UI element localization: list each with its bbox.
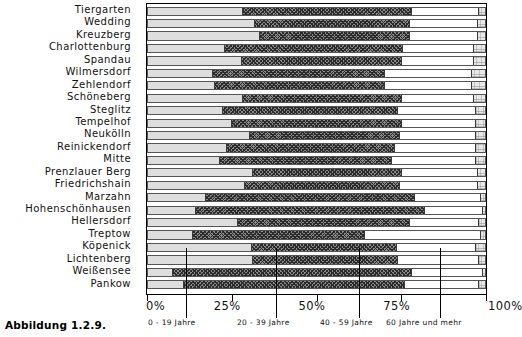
bar-segment xyxy=(259,32,409,39)
bar-segment xyxy=(480,194,485,201)
stacked-bar xyxy=(147,131,486,140)
bar-segment xyxy=(249,132,399,139)
bar-row xyxy=(147,216,486,228)
category-label: Hellersdorf xyxy=(0,215,136,227)
x-axis-tick-label: 25% xyxy=(214,299,241,313)
bar-segment xyxy=(411,8,478,15)
bar-segment xyxy=(477,32,485,39)
bar-segment xyxy=(226,144,395,151)
legend-entry: 0 - 19 Jahre xyxy=(148,318,195,327)
bar-segment xyxy=(399,182,477,189)
stacked-bar xyxy=(147,143,486,152)
bar-segment xyxy=(397,256,478,263)
stacked-bar xyxy=(147,119,486,128)
bar-row xyxy=(147,266,486,278)
bar-segment xyxy=(396,244,475,251)
figure-caption: Abbildung 1.2.9. xyxy=(5,319,106,331)
category-label: Schöneberg xyxy=(0,91,136,103)
category-label: Weißensee xyxy=(0,265,136,277)
bar-segment xyxy=(473,57,485,64)
legend-entry: 60 Jahre und mehr xyxy=(386,318,462,327)
bar-segment xyxy=(475,107,485,114)
stacked-bar xyxy=(147,31,486,40)
bar-segment xyxy=(409,20,476,27)
bar-segment xyxy=(252,169,400,176)
stacked-bar xyxy=(147,230,486,239)
bar-segment xyxy=(148,219,237,226)
bar-row xyxy=(147,105,486,117)
bar-row xyxy=(147,241,486,253)
bar-row xyxy=(147,254,486,266)
bar-segment xyxy=(172,269,411,276)
bar-segment xyxy=(195,207,424,214)
category-label: Steglitz xyxy=(0,104,136,116)
category-label: Charlottenburg xyxy=(0,41,136,53)
bar-row xyxy=(147,30,486,42)
bar-segment xyxy=(397,107,475,114)
bar-segment xyxy=(254,20,409,27)
category-label: Neukölln xyxy=(0,128,136,140)
bar-segment xyxy=(251,244,396,251)
stacked-bar xyxy=(147,69,486,78)
stacked-bar xyxy=(147,19,486,28)
bar-segment xyxy=(148,157,219,164)
bar-segment xyxy=(148,120,231,127)
bar-segment xyxy=(148,231,192,238)
category-label: Reinickendorf xyxy=(0,141,136,153)
x-axis-tick-mark xyxy=(486,295,487,301)
bar-segment xyxy=(364,231,480,238)
bar-segment xyxy=(205,194,414,201)
category-label: Spandau xyxy=(0,54,136,66)
bar-segment xyxy=(478,8,485,15)
bar-segment xyxy=(212,70,384,77)
category-label: Wilmersdorf xyxy=(0,66,136,78)
bar-segment xyxy=(401,169,477,176)
bar-segment xyxy=(475,144,485,151)
bar-segment xyxy=(478,256,485,263)
bar-segment xyxy=(475,132,485,139)
category-label: Kreuzberg xyxy=(0,29,136,41)
bar-segment xyxy=(222,107,397,114)
bar-segment xyxy=(478,219,485,226)
stacked-bar xyxy=(147,94,486,103)
bar-rows xyxy=(147,4,486,294)
bar-row xyxy=(147,80,486,92)
bar-segment xyxy=(401,95,473,102)
category-label: Marzahn xyxy=(0,191,136,203)
stacked-bar xyxy=(147,268,486,277)
bar-segment xyxy=(473,95,485,102)
stacked-bar xyxy=(147,168,486,177)
bar-row xyxy=(147,204,486,216)
stacked-bar xyxy=(147,7,486,16)
bar-segment xyxy=(477,20,485,27)
stacked-bar xyxy=(147,106,486,115)
bar-segment xyxy=(402,45,473,52)
bar-segment xyxy=(424,207,481,214)
bar-row xyxy=(147,55,486,67)
bar-segment xyxy=(384,82,472,89)
bar-segment xyxy=(148,32,259,39)
bar-row xyxy=(147,5,486,17)
bar-segment xyxy=(214,82,384,89)
x-axis-tick-label: 50% xyxy=(299,299,326,313)
bar-segment xyxy=(148,256,252,263)
bar-segment xyxy=(148,182,244,189)
category-label: Prenzlauer Berg xyxy=(0,166,136,178)
bar-segment xyxy=(148,82,214,89)
stacked-bar xyxy=(147,44,486,53)
category-label: Friedrichshain xyxy=(0,178,136,190)
bar-segment xyxy=(148,57,241,64)
bar-segment xyxy=(148,132,249,139)
bar-row xyxy=(147,92,486,104)
bar-row xyxy=(147,279,486,291)
bar-segment xyxy=(401,120,475,127)
stacked-bar xyxy=(147,218,486,227)
stacked-bar xyxy=(147,56,486,65)
bar-row xyxy=(147,117,486,129)
bar-segment xyxy=(183,281,404,288)
bar-segment xyxy=(148,8,242,15)
bar-segment xyxy=(148,107,222,114)
bar-segment xyxy=(148,95,242,102)
bar-row xyxy=(147,67,486,79)
